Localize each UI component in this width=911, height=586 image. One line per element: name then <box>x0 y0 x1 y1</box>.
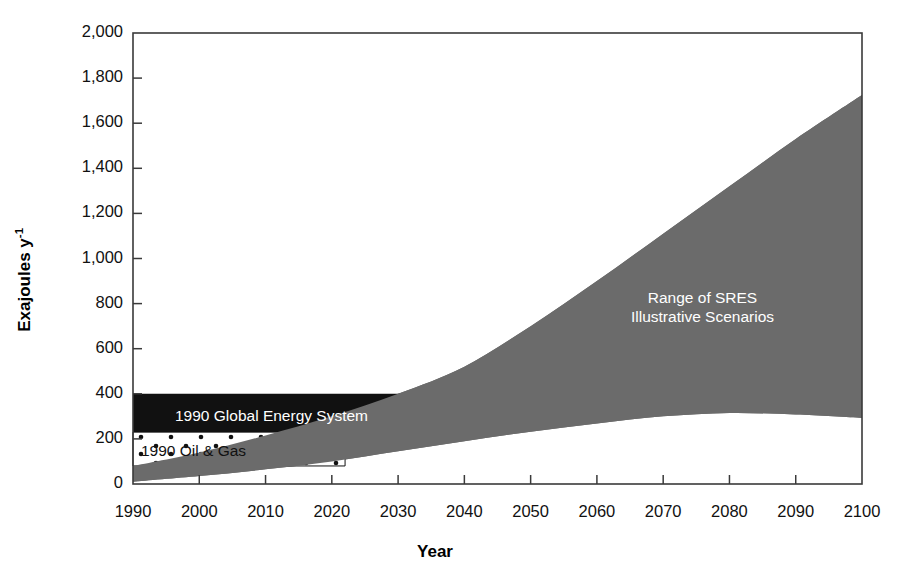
annotation-1990-oil-and-gas: 1990 Oil & Gas <box>141 441 246 460</box>
annotation-1990-global-energy-system: 1990 Global Energy System <box>175 406 368 425</box>
y-axis-ticks <box>133 78 142 439</box>
annotation-sres-range: Range of SRES Illustrative Scenarios <box>631 288 774 327</box>
annotation-sres-line2: Illustrative Scenarios <box>631 307 774 326</box>
x-axis-ticks <box>199 475 795 484</box>
annotation-sres-line1: Range of SRES <box>631 288 774 307</box>
plot-canvas <box>0 0 911 586</box>
energy-scenarios-chart: Exajoules y-1 Year 02004006008001,0001,2… <box>0 0 911 586</box>
